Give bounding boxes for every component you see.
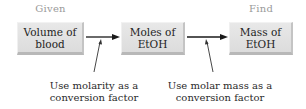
note-line2: conversion factor (162, 92, 278, 104)
box-label-line2: EtOH (240, 38, 281, 50)
box-label-line1: Moles of (130, 26, 176, 38)
mass-of-etoh-box: Mass of EtOH (229, 22, 293, 55)
box-label-line1: Mass of (240, 26, 281, 38)
arrow-right-icon (187, 34, 228, 40)
given-label: Given (17, 3, 84, 14)
find-label: Find (229, 3, 293, 14)
pointer-line-icon (205, 39, 213, 72)
moles-of-etoh-box: Moles of EtOH (121, 22, 185, 55)
box-label-line2: blood (24, 38, 77, 50)
volume-of-blood-box: Volume of blood (17, 22, 84, 55)
pointer-line-icon (94, 39, 102, 72)
box-label-line2: EtOH (130, 38, 176, 50)
molar-mass-note: Use molar mass as a conversion factor (162, 80, 278, 104)
note-line1: Use molarity as a (44, 80, 144, 92)
arrow-right-icon (86, 34, 120, 40)
note-line2: conversion factor (44, 92, 144, 104)
box-label-line1: Volume of (24, 26, 77, 38)
note-line1: Use molar mass as a (162, 80, 278, 92)
molarity-note: Use molarity as a conversion factor (44, 80, 144, 104)
